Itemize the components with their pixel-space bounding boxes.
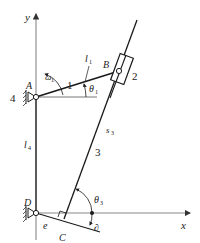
svg-text:3: 3 <box>111 130 114 136</box>
svg-text:1: 1 <box>51 77 54 83</box>
offset-e-label: e <box>43 220 48 231</box>
slider-block-2 <box>111 53 134 84</box>
mechanism-diagram: y x l 4 4 1 l 1 ω 1 <box>0 0 200 243</box>
svg-text:θ: θ <box>89 83 94 94</box>
theta-3-arc <box>76 189 92 213</box>
svg-text:4: 4 <box>28 145 31 151</box>
x-axis-label: x <box>180 219 186 231</box>
reference-dot <box>90 211 94 215</box>
svg-text:3: 3 <box>100 200 103 206</box>
link-1-length-label: l 1 <box>85 53 92 65</box>
pin-a <box>33 94 38 99</box>
link-1-length-leader <box>85 66 89 82</box>
link-1-number: 1 <box>67 79 73 91</box>
point-d-label: D <box>23 197 32 208</box>
svg-text:l: l <box>85 53 88 64</box>
pin-b <box>116 68 121 73</box>
point-a-label: A <box>25 80 33 91</box>
y-axis-label: y <box>24 11 30 23</box>
link-3 <box>64 20 137 219</box>
svg-text:l: l <box>24 139 27 150</box>
theta-1-arc <box>84 84 86 97</box>
pin-d <box>33 210 38 215</box>
link-3-number: 3 <box>95 146 101 158</box>
delta-label: ∂ <box>94 222 99 233</box>
link-3-length-label: s 3 <box>106 125 114 136</box>
point-c-label: C <box>59 232 66 243</box>
link-4-length-label: l 4 <box>24 139 31 151</box>
svg-text:1: 1 <box>95 89 98 95</box>
omega-1-label: ω 1 <box>45 72 54 83</box>
link-4-number: 4 <box>10 92 16 104</box>
theta-3-label: θ 3 <box>94 194 103 206</box>
point-b-label: B <box>103 59 109 70</box>
link-2-number: 2 <box>132 70 138 82</box>
theta-1-label: θ 1 <box>89 83 98 95</box>
svg-text:θ: θ <box>94 194 99 205</box>
svg-text:s: s <box>106 125 110 135</box>
svg-text:1: 1 <box>89 59 92 65</box>
